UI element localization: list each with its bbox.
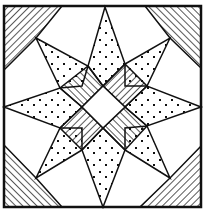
quilt-block-diagram: [0, 0, 206, 216]
